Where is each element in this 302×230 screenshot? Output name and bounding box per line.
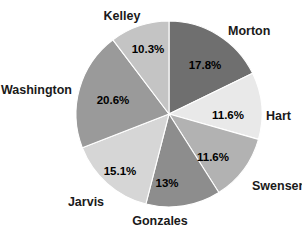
slice-percent-label-hart: 11.6% [212,109,244,121]
slice-category-label-swensen: Swensen [252,179,302,193]
slice-category-label-gonzales: Gonzales [132,214,188,228]
slice-percent-label-jarvis: 15.1% [104,165,137,177]
slice-category-label-kelley: Kelley [104,9,141,23]
slice-percent-label-swensen: 11.6% [197,151,229,163]
slice-category-label-washington: Washington [1,83,72,97]
slice-category-label-jarvis: Jarvis [68,195,104,209]
slice-percent-label-washington: 20.6% [97,94,130,106]
pie-chart: 17.8%11.6%11.6%13%15.1%20.6%10.3% Morton… [0,0,302,230]
slice-percent-label-morton: 17.8% [189,59,222,71]
slice-percent-label-kelley: 10.3% [132,43,165,55]
slice-category-label-morton: Morton [228,24,270,38]
pie-chart-page: 17.8%11.6%11.6%13%15.1%20.6%10.3% Morton… [0,0,302,230]
slice-percent-label-gonzales: 13% [155,177,178,189]
slice-category-label-hart: Hart [266,109,292,123]
